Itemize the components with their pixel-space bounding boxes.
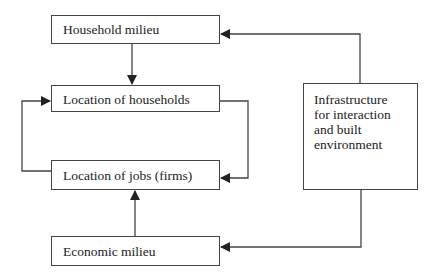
location-jobs-box: Location of jobs (firms) xyxy=(51,160,220,190)
location-households-label: Location of households xyxy=(63,92,190,107)
infrastructure-box: Infrastructure for interaction and built… xyxy=(303,83,418,190)
household-milieu-box: Household milieu xyxy=(51,15,220,44)
location-jobs-label: Location of jobs (firms) xyxy=(63,168,192,183)
economic-milieu-label: Economic milieu xyxy=(63,244,156,259)
arrow-infra-to-household xyxy=(221,34,360,83)
household-milieu-label: Household milieu xyxy=(63,22,159,37)
economic-milieu-box: Economic milieu xyxy=(51,236,220,266)
infrastructure-label: Infrastructure for interaction and built… xyxy=(314,92,391,152)
arrow-jobs-to-households xyxy=(22,101,51,171)
arrow-households-to-jobs xyxy=(220,101,248,178)
arrow-infra-to-economic xyxy=(221,190,361,247)
location-households-box: Location of households xyxy=(51,85,220,112)
